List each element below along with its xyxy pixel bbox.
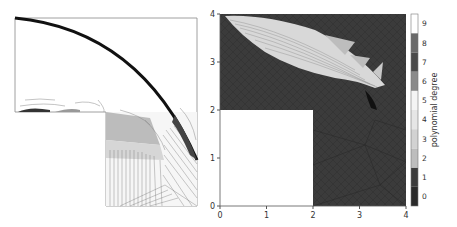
y-axis: 0 1 2 3 4 xyxy=(210,10,220,211)
svg-text:6: 6 xyxy=(422,77,427,86)
svg-text:2: 2 xyxy=(422,154,427,163)
svg-text:9: 9 xyxy=(422,19,427,28)
svg-text:5: 5 xyxy=(422,96,427,105)
svg-text:4: 4 xyxy=(422,115,427,124)
xtick: 3 xyxy=(357,211,362,220)
colorbar-ticks: 0 1 2 3 4 5 6 7 8 9 xyxy=(422,19,427,201)
svg-text:3: 3 xyxy=(422,135,427,144)
contour-lines xyxy=(106,112,197,206)
plot-area xyxy=(220,14,406,206)
ytick: 0 xyxy=(210,202,215,211)
x-axis: 0 1 2 3 4 xyxy=(217,206,408,220)
xtick: 1 xyxy=(264,211,269,220)
colorbar xyxy=(411,14,418,206)
svg-text:7: 7 xyxy=(422,58,427,67)
colorbar-label: polynomial degree xyxy=(430,73,439,148)
svg-text:8: 8 xyxy=(422,39,427,48)
ytick: 1 xyxy=(210,154,215,163)
svg-text:0: 0 xyxy=(422,192,427,201)
shock-contour-plot xyxy=(0,0,205,227)
polynomial-degree-plot: 0 1 2 3 4 0 1 2 3 4 xyxy=(205,0,457,227)
svg-text:1: 1 xyxy=(422,173,427,182)
contour-figure xyxy=(0,0,205,227)
xtick: 2 xyxy=(310,211,315,220)
xtick: 4 xyxy=(403,211,408,220)
ytick: 3 xyxy=(210,58,215,67)
ytick: 4 xyxy=(210,10,215,19)
degree-figure: 0 1 2 3 4 0 1 2 3 4 xyxy=(205,0,457,227)
ytick: 2 xyxy=(210,106,215,115)
xtick: 0 xyxy=(217,211,222,220)
